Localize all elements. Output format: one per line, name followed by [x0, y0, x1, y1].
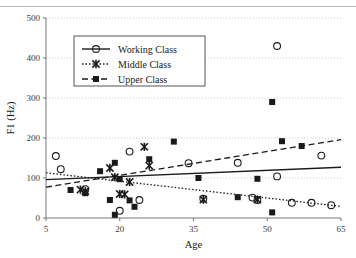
legend-label-2: Upper Class [118, 74, 167, 85]
point-marker [82, 190, 88, 196]
point-marker [274, 173, 281, 180]
point-marker [235, 194, 241, 200]
point-marker [52, 153, 59, 160]
point-marker [274, 43, 281, 50]
point-marker [234, 159, 241, 166]
legend-marker-2 [93, 76, 99, 82]
y-axis-title: F1 (Hz) [5, 101, 17, 134]
point-marker [127, 197, 133, 203]
point-marker [269, 99, 275, 105]
point-marker [195, 175, 201, 181]
legend-label-1: Middle Class [118, 59, 171, 70]
point-marker [269, 209, 275, 215]
fit-line [46, 140, 341, 188]
point-marker [136, 197, 143, 204]
point-marker [171, 139, 177, 145]
point-marker [121, 190, 128, 198]
y-tick-label-500: 500 [27, 13, 41, 23]
point-marker [117, 176, 123, 182]
series-upper-class [46, 99, 341, 218]
scatter-plot: 0100200300400500520355065AgeF1 (Hz)Worki… [0, 0, 356, 258]
x-tick-label-35: 35 [189, 224, 199, 234]
series-middle-class [46, 143, 341, 207]
x-tick-label-65: 65 [337, 224, 347, 234]
x-tick-label-50: 50 [263, 224, 273, 234]
point-marker [200, 195, 207, 203]
y-tick-label-0: 0 [36, 213, 41, 223]
point-marker [254, 176, 260, 182]
legend-label-0: Working Class [118, 44, 177, 55]
point-marker [68, 187, 74, 193]
point-marker [132, 204, 138, 210]
x-tick-label-5: 5 [44, 224, 49, 234]
point-marker [318, 152, 325, 159]
point-marker [107, 197, 113, 203]
y-tick-label-300: 300 [27, 93, 41, 103]
point-marker [146, 156, 152, 162]
point-marker [97, 168, 103, 174]
x-axis-title: Age [185, 239, 203, 250]
point-marker [279, 138, 285, 144]
point-marker [112, 212, 118, 218]
point-marker [112, 160, 118, 166]
point-marker [141, 143, 148, 151]
point-marker [146, 161, 153, 169]
y-tick-label-100: 100 [27, 173, 41, 183]
figure: 0100200300400500520355065AgeF1 (Hz)Worki… [0, 0, 356, 258]
x-tick-label-20: 20 [115, 224, 125, 234]
y-tick-label-400: 400 [27, 53, 41, 63]
point-marker [126, 148, 133, 155]
legend: Working ClassMiddle ClassUpper Class [74, 36, 205, 86]
point-marker [57, 166, 64, 173]
y-tick-label-200: 200 [27, 133, 41, 143]
